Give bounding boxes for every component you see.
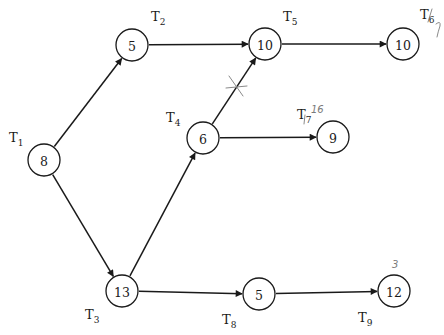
- task-label: T9: [358, 310, 373, 328]
- nodes-group: 8T15T213T36T410T510T69T75T812T9: [9, 7, 435, 330]
- task-label: T8: [222, 312, 237, 330]
- edge-t4-t5: [212, 58, 255, 124]
- node-value: 10: [395, 38, 411, 53]
- cross-mark-icon: [226, 76, 247, 96]
- node-value: 13: [114, 285, 130, 300]
- node-value: 6: [199, 132, 207, 147]
- node-value: 9: [329, 131, 337, 146]
- node-t9: 12T9: [358, 275, 410, 328]
- task-label: T1: [9, 130, 23, 148]
- edge-t3-t8: [139, 291, 242, 293]
- task-label: T5: [283, 9, 298, 27]
- t9-annotation-text: 3: [392, 259, 398, 270]
- node-value: 10: [257, 38, 273, 53]
- node-value: 12: [386, 285, 402, 300]
- node-t6: 10T6: [387, 7, 435, 60]
- node-value: 8: [40, 154, 48, 169]
- node-t1: 8T1: [9, 130, 60, 176]
- edge-t1-t3: [53, 175, 114, 277]
- node-value: 5: [255, 288, 263, 303]
- edge-t1-t2: [54, 59, 121, 147]
- task-label: T2: [151, 9, 165, 27]
- edge-t3-t4: [130, 153, 195, 276]
- task-label: T3: [85, 307, 100, 325]
- node-t8: 5T8: [222, 278, 275, 330]
- node-t5: 10T5: [249, 9, 298, 60]
- edge-t2-t5: [149, 44, 248, 45]
- node-t2: 5T2: [116, 9, 165, 61]
- node-t4: 6T4: [166, 110, 219, 154]
- t7-annotation-text: 16: [311, 104, 324, 115]
- task-label: T6: [420, 7, 435, 25]
- edges-group: [53, 44, 386, 294]
- node-t3: 13T3: [85, 275, 138, 325]
- edge-t8-t9: [276, 291, 377, 293]
- task-label: T4: [166, 110, 181, 128]
- node-value: 5: [128, 39, 136, 54]
- edge-t4-t7: [220, 137, 316, 138]
- task-graph: 16 3 8T15T213T36T410T510T69T75T812T9: [0, 0, 444, 335]
